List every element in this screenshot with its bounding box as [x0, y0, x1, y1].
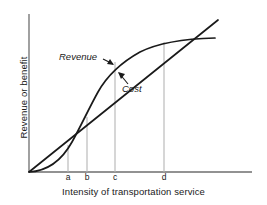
x-tick-label-d: d	[157, 172, 171, 182]
revenue-arrow-icon	[103, 59, 114, 65]
chart-plot-area	[0, 0, 267, 205]
revenue-curve	[29, 38, 215, 172]
cost-line	[29, 20, 218, 172]
revenue-annotation: Revenue	[59, 51, 97, 62]
x-axis-title: Intensity of transportation service	[0, 186, 267, 197]
cost-annotation: Cost	[122, 83, 142, 94]
x-tick-label-a: a	[61, 172, 75, 182]
x-tick-label-b: b	[80, 172, 94, 182]
x-tick-label-c: c	[108, 172, 122, 182]
y-axis-title: Revenue or benefit	[18, 28, 29, 168]
chart-figure: Revenue Cost a b c d Intensity of transp…	[0, 0, 267, 205]
